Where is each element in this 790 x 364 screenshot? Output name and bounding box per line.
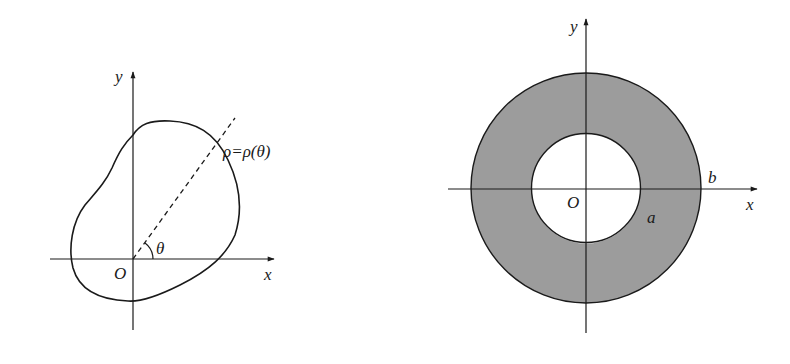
origin-label: O	[114, 264, 126, 283]
inner-radius-label: a	[647, 208, 656, 227]
diagram-canvas: y x O θ ρ=ρ(θ) y x O a b	[0, 0, 790, 364]
angle-label: θ	[156, 239, 164, 258]
curve-equation-label: ρ=ρ(θ)	[222, 142, 271, 161]
outer-radius-label: b	[708, 168, 717, 187]
y-axis-label: y	[568, 17, 578, 36]
dashed-ray	[133, 118, 235, 259]
angle-arc	[145, 243, 153, 259]
closed-curve	[71, 121, 240, 301]
annulus-figure: y x O a b	[448, 17, 757, 333]
y-axis-label: y	[113, 67, 123, 86]
polar-region-figure: y x O θ ρ=ρ(θ)	[50, 67, 274, 330]
origin-label: O	[567, 193, 579, 212]
x-axis-label: x	[263, 265, 272, 284]
x-axis-label: x	[745, 195, 754, 214]
